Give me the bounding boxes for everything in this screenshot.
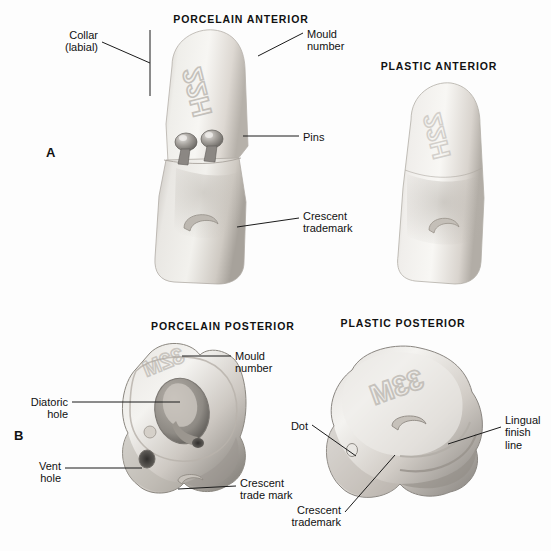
figure-root: 22H [0,0,551,551]
label-mould-number-a-line-2: number [307,40,344,52]
label-crescent-trademark-b: Crescent trade mark [240,477,293,502]
label-crescent-trademark-a: Crescent trademark [303,210,353,235]
label-diatoric-hole-line-2: hole [0,408,68,420]
label-crescent-trademark-c-line-1: Crescent [251,504,341,516]
label-crescent-trademark-c: Crescent trademark [251,504,341,529]
label-lingual-finish-line-line-1: Lingual [505,414,540,426]
label-lingual-finish-line: Lingual finish line [505,414,540,451]
label-lingual-finish-line-line-2: finish [505,426,540,438]
vent-hole-shape [139,450,155,468]
label-crescent-trademark-c-line-2: trademark [251,516,341,528]
label-vent-hole: Vent hole [0,460,61,485]
caption-porcelain-posterior: PORCELAIN POSTERIOR [151,320,295,332]
label-pins-line-1: Pins [303,131,324,143]
label-diatoric-hole-line-1: Diatoric [0,396,68,408]
label-crescent-trademark-b-line-1: Crescent [240,477,293,489]
label-vent-hole-line-1: Vent [0,460,61,472]
panel-letter-b: B [14,428,23,443]
label-dot-line-1: Dot [258,420,308,432]
label-dot: Dot [258,420,308,432]
caption-plastic-posterior: PLASTIC POSTERIOR [341,317,466,329]
caption-porcelain-anterior: PORCELAIN ANTERIOR [173,13,308,25]
porcelain-anterior-tooth: 22H [138,26,258,294]
label-crescent-trademark-a-line-2: trademark [303,222,353,234]
label-vent-hole-line-2: hole [0,472,61,484]
label-pins: Pins [303,131,324,143]
panel-letter-a: A [46,145,55,160]
caption-plastic-anterior: PLASTIC ANTERIOR [381,60,498,72]
diatoric-undercut [192,438,204,448]
dot-shape [347,444,358,457]
label-diatoric-hole: Diatoric hole [0,396,68,421]
label-crescent-trademark-b-line-2: trade mark [240,489,293,501]
label-mould-number-a-line-1: Mould [307,28,344,40]
label-collar-line-2: (labial) [0,41,98,53]
label-collar-line-1: Collar [0,29,98,41]
label-mould-number-b: Mould number [235,350,272,375]
label-crescent-trademark-a-line-1: Crescent [303,210,353,222]
label-lingual-finish-line-line-3: line [505,439,540,451]
label-mould-number-b-line-2: number [235,362,272,374]
label-collar: Collar (labial) [0,29,98,54]
label-mould-number-b-line-1: Mould [235,350,272,362]
label-mould-number-a: Mould number [307,28,344,53]
plastic-posterior-tooth: 33M [300,330,515,530]
plastic-anterior-tooth: 22H [385,78,495,296]
